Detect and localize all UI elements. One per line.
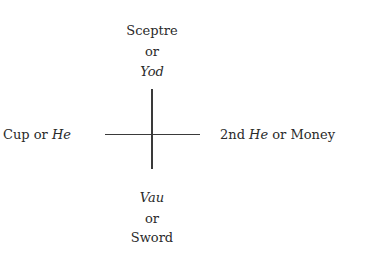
bottom-label-sword: Sword	[131, 231, 173, 244]
right-label-he: He	[249, 127, 268, 142]
right-label: 2nd He or Money	[220, 128, 335, 141]
left-label-he: He	[52, 127, 71, 142]
bottom-label-or: or	[145, 212, 159, 225]
horizontal-line	[105, 134, 200, 135]
top-label-sceptre: Sceptre	[126, 24, 177, 37]
left-label: Cup or He	[3, 128, 71, 141]
top-label-or: or	[145, 45, 159, 58]
left-label-text: Cup or	[3, 127, 52, 142]
bottom-label-vau: Vau	[140, 191, 164, 204]
right-label-suffix: or Money	[268, 127, 335, 142]
vertical-line	[151, 89, 153, 169]
right-label-prefix: 2nd	[220, 127, 249, 142]
top-label-yod: Yod	[140, 65, 164, 78]
